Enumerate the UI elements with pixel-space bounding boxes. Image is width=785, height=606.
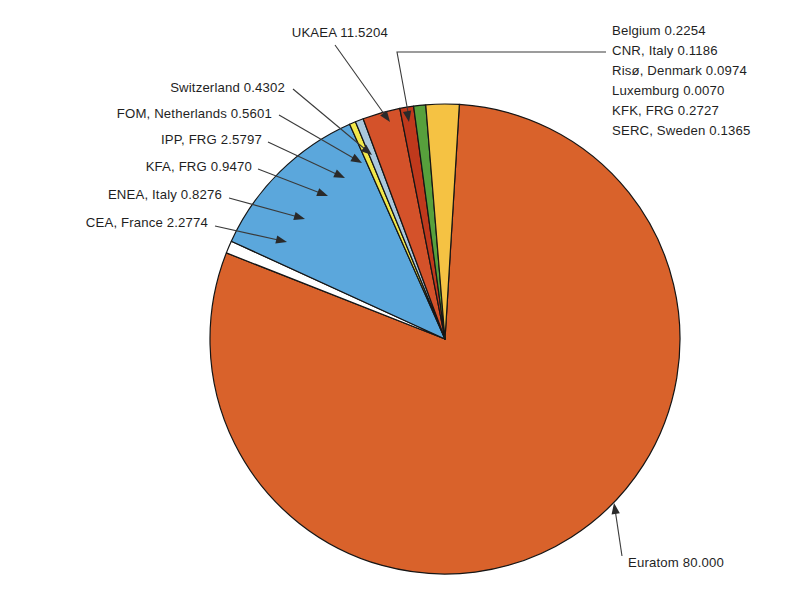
label-euratom-line	[615, 512, 622, 556]
label-enea-italy: ENEA, Italy 0.8276	[108, 187, 222, 202]
label-cnr-italy: CNR, Italy 0.1186	[612, 43, 718, 58]
label-kfa-frg: KFA, FRG 0.9470	[146, 159, 252, 174]
bracket-small-slices	[397, 52, 606, 112]
label-switzerland: Switzerland 0.4302	[170, 80, 285, 95]
label-ipp-frg: IPP, FRG 2.5797	[161, 132, 262, 147]
label-ukaea-line	[335, 45, 385, 115]
label-serc-sweden: SERC, Sweden 0.1365	[612, 123, 750, 138]
label-cea-france: CEA, France 2.2774	[86, 215, 208, 230]
figure-canvas: Euratom 80.000small-groupUKAEA 11.5204Sw…	[0, 0, 785, 606]
label-riso-denmark: Risø, Denmark 0.0974	[612, 63, 747, 78]
label-euratom-arrow	[612, 503, 620, 515]
label-kfk-frg: KFK, FRG 0.2727	[612, 103, 719, 118]
pie-slices: Euratom 80.000small-groupUKAEA 11.5204Sw…	[210, 104, 680, 574]
label-ukaea: UKAEA 11.5204	[292, 25, 388, 40]
label-belgium: Belgium 0.2254	[612, 23, 706, 38]
label-luxemburg: Luxemburg 0.0070	[612, 83, 724, 98]
label-fom-netherlands: FOM, Netherlands 0.5601	[117, 106, 272, 121]
pie-chart: Euratom 80.000small-groupUKAEA 11.5204Sw…	[0, 0, 785, 606]
label-euratom: Euratom 80.000	[628, 555, 724, 570]
